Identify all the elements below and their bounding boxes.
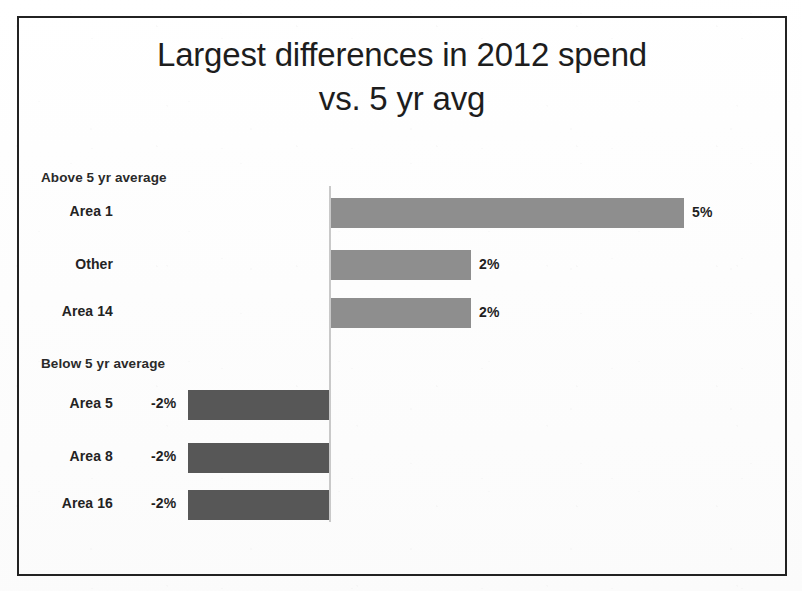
group-heading-below: Below 5 yr average (41, 356, 165, 371)
category-label-row-2: Area 14 (0, 303, 113, 319)
category-label-row-3: Area 5 (0, 395, 113, 411)
value-label-row-0: 5% (692, 204, 712, 220)
plot-area: Above 5 yr average Below 5 yr average Ar… (0, 0, 802, 591)
group-heading-above: Above 5 yr average (41, 170, 167, 185)
zero-value-axis-line (329, 186, 331, 522)
category-label-row-5: Area 16 (0, 495, 113, 511)
category-label-row-1: Other (0, 256, 113, 272)
value-label-row-1: 2% (479, 256, 499, 272)
bar-row-2[interactable] (331, 298, 471, 328)
value-label-row-4: -2% (151, 448, 176, 464)
bar-row-0[interactable] (331, 198, 684, 228)
value-label-row-2: 2% (479, 304, 499, 320)
bar-row-4[interactable] (188, 443, 329, 473)
bar-row-3[interactable] (188, 390, 329, 420)
chart-screenshot: Largest differences in 2012 spend vs. 5 … (0, 0, 802, 591)
value-label-row-5: -2% (151, 495, 176, 511)
category-label-row-0: Area 1 (0, 203, 113, 219)
bar-row-1[interactable] (331, 250, 471, 280)
value-label-row-3: -2% (151, 395, 176, 411)
bar-row-5[interactable] (188, 490, 329, 520)
category-label-row-4: Area 8 (0, 448, 113, 464)
